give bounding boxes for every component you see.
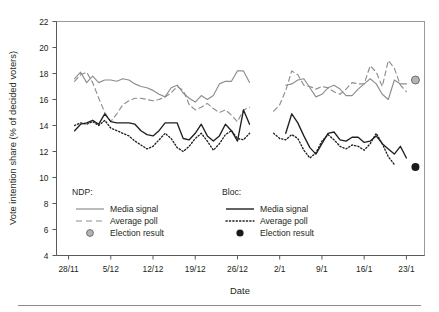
x-tick-label: 5/12: [103, 264, 120, 274]
y-tick-label: 4: [44, 251, 49, 261]
x-tick-label: 16/1: [356, 264, 373, 274]
legend-bloc-average-poll-label: Average poll: [260, 216, 308, 226]
y-tick-label: 6: [44, 225, 49, 235]
legend-ndp-media-signal-label: Media signal: [110, 204, 158, 214]
y-tick-label: 16: [39, 95, 49, 105]
legend-bloc-heading: Bloc:: [222, 187, 241, 197]
x-tick-label: 12/12: [143, 264, 164, 274]
y-tick-label: 22: [39, 17, 49, 27]
legend-ndp-heading: NDP:: [72, 187, 93, 197]
y-tick-label: 18: [39, 69, 49, 79]
election-result-marker-bloc: [411, 163, 419, 171]
legend-bloc-election-result-marker: [236, 229, 243, 236]
x-tick-label: 28/11: [58, 264, 79, 274]
legend-bloc-election-result-label: Election result: [260, 228, 315, 238]
x-tick-label: 23/1: [398, 264, 415, 274]
y-tick-label: 12: [39, 147, 49, 157]
y-tick-label: 8: [44, 199, 49, 209]
legend-bloc-media-signal-label: Media signal: [260, 204, 308, 214]
legend-ndp-election-result-marker: [87, 230, 94, 237]
figure-container: 46810121416182022 28/115/1212/1219/1226/…: [0, 0, 439, 312]
legend-ndp-average-poll-label: Average poll: [110, 216, 158, 226]
legend-ndp-election-result-label: Election result: [110, 228, 165, 238]
x-tick-label: 9/1: [316, 264, 328, 274]
y-tick-label: 14: [39, 121, 49, 131]
x-tick-label: 19/12: [185, 264, 206, 274]
y-tick-label: 20: [39, 43, 49, 53]
y-axis-title: Vote intention share (% of decided voter…: [7, 51, 18, 225]
election-result-marker-ndp: [411, 76, 419, 84]
x-axis-title: Date: [230, 285, 250, 296]
y-tick-label: 10: [39, 173, 49, 183]
x-tick-label: 2/1: [274, 264, 286, 274]
vote-intention-line-chart: 46810121416182022 28/115/1212/1219/1226/…: [0, 0, 439, 312]
x-tick-label: 26/12: [227, 264, 248, 274]
